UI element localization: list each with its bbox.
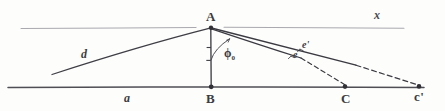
label-point-c: C bbox=[341, 92, 351, 105]
point-dot-b bbox=[209, 84, 214, 89]
label-point-c-prime: c' bbox=[414, 90, 424, 103]
label-point-b: B bbox=[206, 92, 215, 105]
label-angle-phi: ϕ0 bbox=[224, 47, 235, 62]
label-segment-e: e bbox=[293, 50, 297, 60]
label-point-a: A bbox=[206, 10, 216, 23]
point-dot-c bbox=[343, 84, 348, 89]
point-dot-a bbox=[209, 26, 213, 30]
angle-phi-symbol: ϕ bbox=[224, 46, 232, 60]
ray-e-prime bbox=[212, 28, 420, 85]
label-segment-d: d bbox=[81, 48, 87, 60]
baseline-group bbox=[8, 87, 424, 88]
angle-phi-subscript: 0 bbox=[232, 54, 236, 62]
label-segment-x: x bbox=[374, 9, 380, 21]
geometry-sketch-figure: A B C c' x a d e' e ϕ0 bbox=[0, 0, 445, 111]
left-ray-d bbox=[52, 28, 210, 74]
label-segment-a: a bbox=[124, 92, 130, 104]
vertical-ab bbox=[206, 29, 211, 87]
label-segment-e-prime: e' bbox=[302, 40, 309, 50]
point-dot-c-prime bbox=[417, 84, 422, 89]
